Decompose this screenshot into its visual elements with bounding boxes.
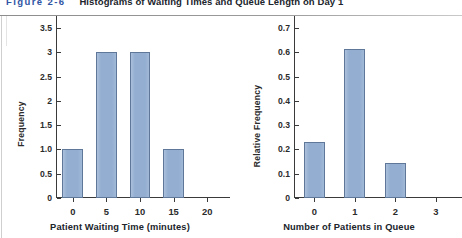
y-tick-label: 3.5 — [40, 23, 52, 33]
bars-container-left: 05101520 — [56, 28, 224, 198]
x-tick-mark — [395, 198, 396, 202]
histogram-bar — [385, 163, 406, 198]
bars-container-right: 0123 — [294, 28, 456, 198]
y-axis-line — [294, 16, 295, 198]
y-tick-mark — [295, 198, 299, 199]
y-tick-mark — [295, 174, 299, 175]
y-tick-mark — [57, 198, 61, 199]
figure-number: Figure 2-6 — [6, 0, 65, 7]
histogram-bar — [62, 149, 83, 198]
figure-body: Frequency 00.51.01.522.533.5 05101520 Pa… — [0, 16, 462, 238]
y-tick-mark — [295, 52, 299, 53]
x-tick-mark — [140, 198, 141, 202]
figure-title: Histograms of Waiting Times and Queue Le… — [79, 0, 343, 7]
y-axis-label-left: Frequency — [16, 101, 26, 146]
y-tick-label: 0.3 — [278, 120, 290, 130]
x-tick-label: 0 — [312, 206, 317, 217]
y-tick-mark — [295, 101, 299, 102]
x-tick-mark — [314, 198, 315, 202]
plot-area-right: Relative Frequency 00.10.20.30.40.50.60.… — [236, 16, 462, 238]
histogram-bar — [96, 52, 117, 198]
y-tick-label: 1.0 — [40, 144, 52, 154]
figure-caption: Figure 2-6Histograms of Waiting Times an… — [0, 0, 462, 15]
y-tick-mark — [295, 77, 299, 78]
y-tick-mark — [57, 28, 61, 29]
x-tick-label: 5 — [104, 206, 109, 217]
y-tick-mark — [295, 28, 299, 29]
y-axis-label-right: Relative Frequency — [252, 85, 262, 167]
x-axis-label-right: Number of Patients in Queue — [236, 222, 462, 232]
x-tick-mark — [106, 198, 107, 202]
x-tick-label: 10 — [135, 206, 145, 217]
y-tick-mark — [57, 52, 61, 53]
y-tick-mark — [57, 125, 61, 126]
y-tick-label: 2.5 — [40, 72, 52, 82]
x-tick-mark — [73, 198, 74, 202]
x-tick-label: 2 — [393, 206, 398, 217]
x-tick-label: 15 — [168, 206, 178, 217]
caption-line: Figure 2-6Histograms of Waiting Times an… — [6, 0, 343, 7]
x-tick-label: 0 — [70, 206, 75, 217]
y-tick-labels-right: 00.10.20.30.40.50.60.7 — [264, 16, 290, 238]
y-tick-label: 0 — [47, 193, 52, 203]
y-tick-mark — [57, 174, 61, 175]
y-tick-label: 2 — [47, 96, 52, 106]
histogram-bar — [130, 52, 151, 198]
y-tick-label: 0.6 — [278, 47, 290, 57]
histogram-bar — [304, 142, 325, 198]
y-tick-mark — [295, 125, 299, 126]
y-tick-label: 0.2 — [278, 144, 290, 154]
y-tick-label: 1.5 — [40, 120, 52, 130]
y-tick-label: 0.1 — [278, 169, 290, 179]
histogram-queue-length: Relative Frequency 00.10.20.30.40.50.60.… — [236, 16, 462, 238]
y-tick-label: 0.5 — [40, 169, 52, 179]
x-tick-label: 1 — [352, 206, 357, 217]
x-axis-label-left: Patient Waiting Time (minutes) — [8, 222, 232, 232]
y-tick-mark — [57, 101, 61, 102]
y-tick-label: 0.7 — [278, 23, 290, 33]
y-tick-mark — [57, 77, 61, 78]
x-tick-mark — [436, 198, 437, 202]
histogram-waiting-time: Frequency 00.51.01.522.533.5 05101520 Pa… — [8, 16, 232, 238]
y-tick-label: 0 — [285, 193, 290, 203]
x-tick-label: 20 — [202, 206, 212, 217]
y-tick-label: 0.4 — [278, 96, 290, 106]
x-tick-mark — [174, 198, 175, 202]
y-tick-label: 3 — [47, 47, 52, 57]
y-tick-mark — [57, 149, 61, 150]
y-tick-label: 0.5 — [278, 72, 290, 82]
y-tick-mark — [295, 149, 299, 150]
x-tick-mark — [207, 198, 208, 202]
plot-area-left: Frequency 00.51.01.522.533.5 05101520 Pa… — [8, 16, 232, 238]
y-axis-line — [56, 16, 57, 198]
histogram-bar — [163, 149, 184, 198]
x-tick-mark — [355, 198, 356, 202]
histogram-bar — [344, 49, 365, 198]
x-tick-label: 3 — [433, 206, 438, 217]
y-tick-labels-left: 00.51.01.522.533.5 — [26, 16, 52, 238]
